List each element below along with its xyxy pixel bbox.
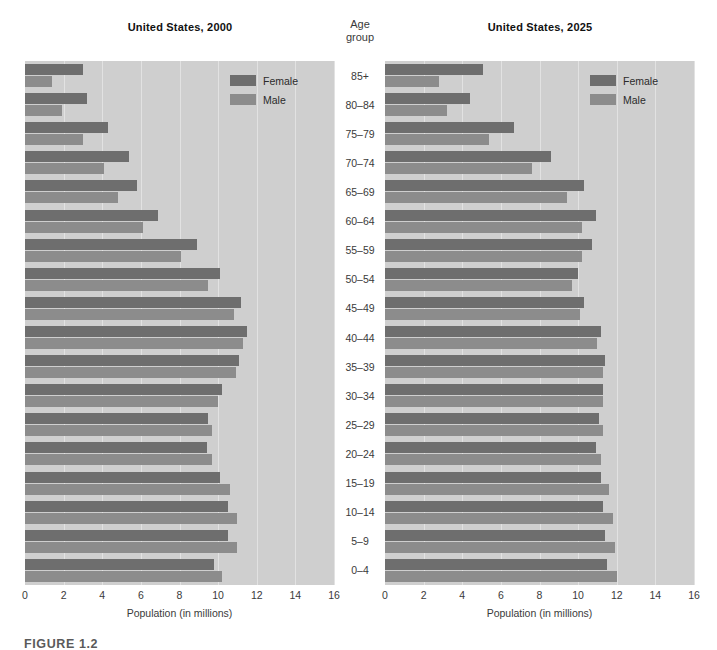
bar-female	[25, 384, 222, 395]
age-group-label: 15–19	[336, 469, 384, 498]
bar-row	[385, 236, 694, 265]
x-axis-tick-label: 12	[251, 589, 263, 601]
bar-male	[385, 251, 582, 262]
x-axis-tick-label: 4	[459, 589, 465, 601]
bar-male	[25, 309, 234, 320]
bar-female	[25, 239, 197, 250]
bar-female	[25, 413, 208, 424]
age-group-axis: 85+80–8475–7970–7465–6960–6455–5950–5445…	[336, 61, 384, 585]
bar-male	[25, 425, 212, 436]
bar-female	[385, 355, 605, 366]
x-axis-tick-label: 8	[537, 589, 543, 601]
bar-row	[385, 207, 694, 236]
age-group-label: 70–74	[336, 148, 384, 177]
gridline	[694, 61, 695, 585]
bar-row	[385, 498, 694, 527]
bar-row	[385, 527, 694, 556]
legend-swatch-male-icon	[590, 94, 616, 105]
x-axis-tick-label: 0	[382, 589, 388, 601]
bar-row	[385, 439, 694, 468]
bar-rows-2000	[25, 61, 334, 585]
bar-male	[385, 367, 603, 378]
bar-male	[385, 454, 601, 465]
bar-row	[25, 207, 334, 236]
figure-caption: FIGURE 1.2	[24, 637, 98, 650]
x-axis-tick-label: 10	[212, 589, 224, 601]
bar-row	[25, 148, 334, 177]
age-group-label: 25–29	[336, 410, 384, 439]
x-axis-tick-label: 8	[177, 589, 183, 601]
age-group-header-line2: group	[336, 31, 384, 44]
bar-female	[385, 530, 605, 541]
bar-row	[25, 177, 334, 206]
age-group-label: 80–84	[336, 90, 384, 119]
bar-male	[25, 367, 236, 378]
x-axis-tick-label: 4	[99, 589, 105, 601]
bar-female	[385, 472, 601, 483]
legend-entry-male: Male	[230, 92, 322, 107]
bar-row	[25, 323, 334, 352]
bar-female	[385, 559, 607, 570]
age-group-label: 85+	[336, 61, 384, 90]
bar-row	[25, 527, 334, 556]
bar-male	[385, 309, 580, 320]
bar-row	[25, 119, 334, 148]
x-axis-tick-label: 2	[61, 589, 67, 601]
bar-male	[385, 280, 572, 291]
legend-label-male: Male	[623, 94, 646, 106]
bar-female	[25, 530, 228, 541]
age-group-header: Age group	[336, 18, 384, 44]
x-axis-tick-label: 12	[611, 589, 623, 601]
bar-row	[385, 177, 694, 206]
bar-female	[25, 122, 108, 133]
age-group-header-line1: Age	[336, 18, 384, 31]
bar-row	[385, 148, 694, 177]
bar-male	[385, 484, 609, 495]
bar-female	[25, 442, 207, 453]
bar-female	[385, 93, 470, 104]
bar-female	[25, 326, 247, 337]
x-axis-2000: 0246810121416	[25, 585, 334, 605]
bar-row	[385, 119, 694, 148]
bar-female	[385, 210, 596, 221]
bar-row	[25, 294, 334, 323]
bar-female	[25, 93, 87, 104]
age-group-label: 10–14	[336, 498, 384, 527]
panel-title-2025: United States, 2025	[385, 21, 695, 33]
bar-male	[385, 338, 597, 349]
gridline	[334, 61, 335, 585]
x-axis-tick-label: 16	[688, 589, 700, 601]
legend-swatch-male-icon	[230, 94, 256, 105]
bar-male	[25, 513, 237, 524]
bar-female	[385, 384, 603, 395]
bar-row	[385, 381, 694, 410]
legend-entry-male: Male	[590, 92, 682, 107]
bar-female	[25, 472, 220, 483]
bar-female	[25, 355, 239, 366]
bar-row	[385, 323, 694, 352]
bar-female	[385, 239, 592, 250]
bar-male	[25, 454, 212, 465]
bar-row	[385, 469, 694, 498]
x-axis-label-2000: Population (in millions)	[25, 607, 334, 619]
x-axis-tick-label: 0	[22, 589, 28, 601]
age-group-label: 5–9	[336, 527, 384, 556]
bar-row	[385, 410, 694, 439]
age-group-label: 35–39	[336, 352, 384, 381]
bar-male	[25, 251, 181, 262]
bar-female	[25, 559, 214, 570]
population-pyramid-figure: United States, 2000 United States, 2025 …	[0, 0, 717, 650]
age-group-label: 0–4	[336, 556, 384, 585]
bar-female	[25, 501, 228, 512]
legend-swatch-female-icon	[590, 75, 616, 86]
bar-male	[25, 280, 208, 291]
bar-row	[385, 294, 694, 323]
bar-female	[385, 413, 599, 424]
age-group-label: 65–69	[336, 177, 384, 206]
bar-male	[25, 76, 52, 87]
bar-male	[385, 425, 603, 436]
bar-female	[25, 180, 137, 191]
bar-row	[25, 469, 334, 498]
legend-2000: Female Male	[230, 73, 322, 111]
bar-row	[25, 556, 334, 585]
